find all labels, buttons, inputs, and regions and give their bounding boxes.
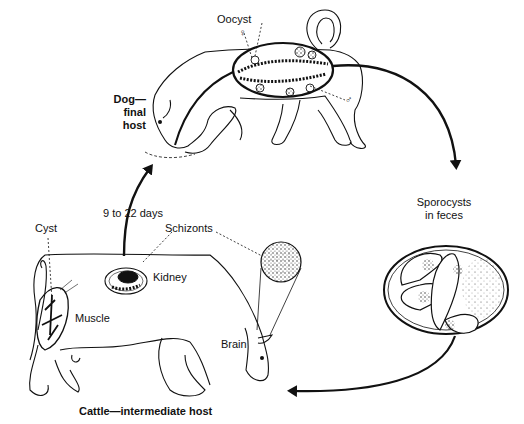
label-transition-days: 9 to 22 days — [103, 207, 163, 220]
label-muscle: Muscle — [75, 312, 110, 325]
dog-host-line3: host — [102, 119, 146, 132]
arrow-dog-to-sporocysts — [333, 65, 456, 165]
dog-host-line2: final — [102, 106, 146, 119]
cattle-illustration — [30, 254, 272, 396]
label-dog-final-host: Dog— final host — [102, 93, 146, 132]
label-cyst: Cyst — [35, 222, 57, 235]
label-schizonts: Schizonts — [165, 222, 213, 235]
sporocysts-line2: in feces — [400, 209, 488, 222]
schizont-magnified — [257, 242, 301, 335]
label-cattle-intermediate-host: Cattle—intermediate host — [79, 405, 212, 418]
arrow-sporocysts-to-cattle — [292, 336, 455, 391]
label-brain: Brain — [221, 338, 247, 351]
dog-host-line1: Dog— — [102, 93, 146, 106]
label-kidney: Kidney — [153, 271, 187, 284]
life-cycle-diagram: Oocyst ♀ ♂ Dog— final host 9 to 22 days … — [0, 0, 524, 424]
label-oocyst: Oocyst — [217, 13, 251, 26]
female-symbol: ♀ — [239, 26, 247, 39]
cattle-kidney — [105, 268, 147, 294]
male-symbol: ♂ — [345, 93, 353, 106]
sporocysts-line1: Sporocysts — [400, 196, 488, 209]
cattle-muscle — [37, 280, 78, 350]
label-sporocysts: Sporocysts in feces — [400, 196, 488, 222]
sporocyst-oocyst — [384, 246, 508, 334]
cattle-pointers — [48, 232, 262, 300]
